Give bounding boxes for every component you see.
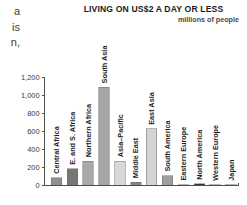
bar (83, 161, 93, 185)
bar-category-label: North America (195, 129, 204, 180)
bar-category-label: Central Africa (52, 125, 61, 174)
bar (115, 161, 125, 185)
bar-category-label: Eastern Europe (179, 127, 188, 181)
bar-category-label: South America (163, 119, 172, 171)
bar-category-label: E. and S. Africa (68, 111, 77, 165)
bars-group: Central AfricaE. and S. AfricaNorthern A… (51, 45, 236, 186)
y-axis-tick-label: 400 (27, 145, 39, 154)
bar (51, 178, 61, 186)
y-axis-tick-label: 0 (35, 181, 39, 190)
bar-category-label: Japan (227, 160, 236, 181)
bar-category-label: Middle East (131, 137, 140, 178)
y-axis-tick-label: 1,200 (21, 73, 40, 82)
y-axis-tick-label: 1,000 (21, 91, 40, 100)
bar (99, 87, 109, 185)
bar-category-label: Northern Africa (84, 103, 93, 157)
bar (162, 176, 172, 186)
bar-chart-svg: 02004006008001,0001,200 Central AfricaE.… (0, 0, 247, 205)
y-axis-tick-label: 200 (27, 163, 39, 172)
bar (67, 169, 77, 186)
bar-category-label: East Asia (147, 91, 156, 125)
y-axis: 02004006008001,0001,200 (21, 73, 45, 190)
bar-category-label: Western Europe (211, 125, 220, 181)
bar-chart-plot-area: 02004006008001,0001,200 Central AfricaE.… (0, 0, 247, 205)
bar-category-label: Asia–Pacific (116, 114, 125, 157)
bar-category-label: South Asia (100, 45, 109, 84)
bar (146, 129, 156, 186)
y-axis-tick-label: 800 (27, 109, 39, 118)
y-axis-tick-label: 600 (27, 127, 39, 136)
